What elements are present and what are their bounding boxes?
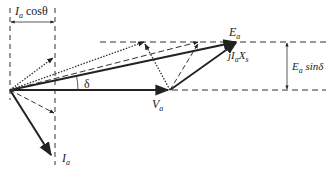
ia-cos-theta-label: Ia cosθ bbox=[15, 5, 48, 22]
delta-label: δ bbox=[84, 78, 90, 90]
va-label: Va bbox=[152, 98, 163, 115]
delta-angle-arc bbox=[77, 76, 79, 90]
jiaxs-phasor-arrow bbox=[170, 43, 236, 90]
ea-label: Ea bbox=[229, 26, 240, 43]
jiaxs-dotted-phasor-arrow bbox=[145, 44, 170, 90]
jiaxs-label: jIaXs bbox=[228, 49, 249, 66]
phasor-diagram bbox=[0, 0, 328, 172]
ia-label: Ia bbox=[62, 152, 70, 169]
ea-sin-delta-label: Ea sinδ bbox=[292, 60, 323, 77]
ea-dashed-phasor-arrow bbox=[10, 42, 198, 90]
ia-phasor-arrow bbox=[10, 90, 51, 155]
